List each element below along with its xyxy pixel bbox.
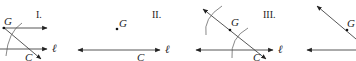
panel-3: G C ℓ III. — [196, 6, 283, 61]
panel-label: II. — [152, 9, 161, 20]
panel-label: III. — [263, 9, 276, 20]
panel-2: G C ℓ II. — [78, 9, 170, 61]
panel-1: G C ℓ I. — [0, 9, 57, 61]
label-l: ℓ — [278, 43, 283, 55]
compass-arc-1 — [206, 6, 222, 35]
label-c: C — [25, 51, 33, 61]
label-c: C — [137, 51, 145, 61]
label-g: G — [231, 16, 239, 28]
label-g: G — [4, 15, 12, 27]
label-l: ℓ — [52, 42, 57, 54]
label-g: G — [347, 17, 355, 29]
point-g — [229, 29, 232, 32]
panel-label: I. — [36, 9, 42, 20]
construction-diagram: G C ℓ I. G C ℓ II. G C ℓ III. G — [0, 0, 356, 61]
transversal-line — [3, 27, 41, 59]
label-c: C — [253, 51, 261, 61]
point-g — [3, 27, 5, 29]
panel-4: G — [307, 6, 356, 50]
label-l: ℓ — [165, 43, 170, 55]
point-g — [116, 28, 119, 31]
label-g: G — [119, 17, 127, 29]
point-g — [346, 29, 349, 32]
